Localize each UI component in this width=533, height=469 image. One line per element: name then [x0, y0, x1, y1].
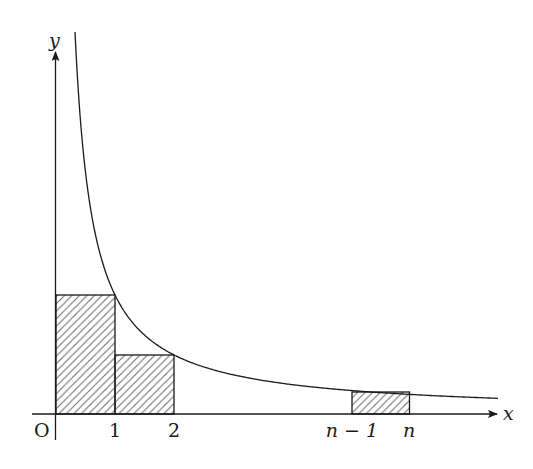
- rect-0-1: [56, 295, 115, 414]
- curve-y-equals-1-over-x: [75, 32, 498, 398]
- tick-label-n: n: [403, 419, 415, 441]
- rect-n: [352, 392, 410, 414]
- tick-label-n-minus-1: n − 1: [326, 419, 378, 441]
- x-axis-label: x: [503, 402, 514, 424]
- rect-1-2: [115, 355, 174, 414]
- diagram-canvas: y x O 1 2 n − 1 n: [0, 0, 533, 469]
- y-axis-label: y: [48, 29, 60, 51]
- tick-label-2: 2: [168, 419, 180, 441]
- tick-label-1: 1: [109, 419, 121, 441]
- origin-label: O: [34, 419, 50, 441]
